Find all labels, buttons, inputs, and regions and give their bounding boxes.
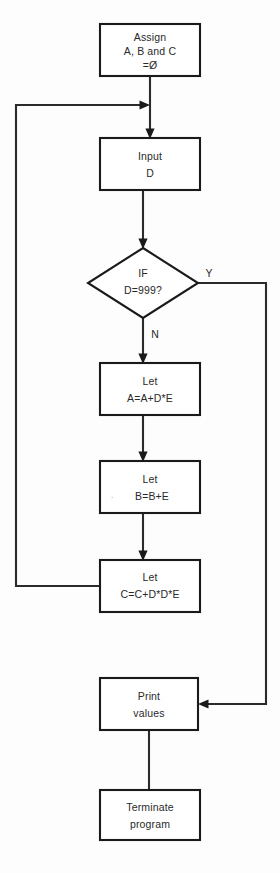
- edge-let-b-to-let-c: [138, 513, 147, 561]
- node-terminate-line2: program: [130, 818, 170, 830]
- node-input-line2: D: [146, 167, 154, 179]
- node-let-b-line1: Let: [142, 473, 157, 485]
- node-let-b-line2: B=B+E: [135, 490, 169, 502]
- edge-decision-yes-to-print: [198, 283, 266, 709]
- edge-let-a-to-let-b: [138, 415, 147, 462]
- node-assign-line1: Assign: [134, 31, 166, 43]
- branch-label-yes: Y: [205, 267, 212, 279]
- node-assign[interactable]: Assign A, B and C =Ø: [100, 24, 200, 76]
- node-let-c-line2: C=C+D*D*E: [120, 588, 179, 600]
- node-decision-line1: IF: [138, 267, 148, 279]
- speck-mark: ·: [111, 493, 114, 502]
- edge-input-to-decision: [138, 190, 147, 249]
- node-terminate[interactable]: Terminate program: [100, 790, 200, 840]
- node-let-a-line2: A=A+D*E: [127, 392, 173, 404]
- node-let-c-line1: Let: [142, 571, 157, 583]
- node-input-line1: Input: [138, 150, 162, 162]
- node-let-c[interactable]: Let C=C+D*D*E: [100, 560, 200, 612]
- node-assign-line2: A, B and C: [124, 45, 177, 57]
- node-print[interactable]: Print values: [100, 678, 198, 730]
- node-decision-line2: D=999?: [124, 284, 162, 296]
- branch-label-no: N: [151, 328, 159, 340]
- node-let-a-line1: Let: [142, 375, 157, 387]
- node-print-line2: values: [133, 707, 164, 719]
- node-decision[interactable]: IF D=999?: [88, 248, 198, 318]
- edge-decision-no-to-let-a: [138, 318, 147, 364]
- node-print-line1: Print: [138, 690, 160, 702]
- node-assign-line3: =Ø: [143, 59, 158, 71]
- node-terminate-line1: Terminate: [126, 801, 173, 813]
- flowchart-diagram: Assign A, B and C =Ø Input D IF D=999? Y…: [0, 0, 280, 873]
- edge-assign-to-input: [145, 76, 154, 139]
- flowchart-canvas: Assign A, B and C =Ø Input D IF D=999? Y…: [0, 0, 280, 873]
- node-let-a[interactable]: Let A=A+D*E: [100, 363, 200, 415]
- node-input[interactable]: Input D: [100, 138, 200, 190]
- node-let-b[interactable]: Let · B=B+E: [100, 461, 200, 513]
